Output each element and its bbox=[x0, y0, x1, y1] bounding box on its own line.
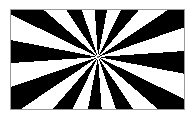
starburst-chart bbox=[11, 10, 184, 109]
center-hub bbox=[97, 56, 99, 58]
figure-border-frame bbox=[10, 9, 185, 110]
figure-root: Starburst radial pattern bbox=[0, 0, 194, 118]
